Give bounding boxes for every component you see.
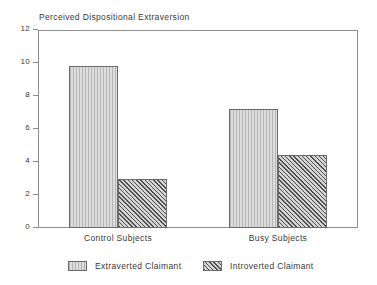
x-axis-category-label: Control Subjects xyxy=(48,233,188,243)
y-tick-mark xyxy=(33,62,38,63)
bar xyxy=(229,109,278,228)
y-tick-label: 12 xyxy=(21,24,31,34)
legend-item: Extraverted Claimant xyxy=(68,258,181,274)
y-tick-mark xyxy=(33,95,38,96)
y-tick-label: 0 xyxy=(25,222,30,232)
y-tick-mark xyxy=(33,161,38,162)
y-tick-mark xyxy=(33,194,38,195)
y-tick-mark xyxy=(33,29,38,30)
chart-legend: Extraverted ClaimantIntroverted Claimant xyxy=(0,258,377,278)
y-tick-label: 10 xyxy=(21,57,31,67)
bar xyxy=(278,155,327,228)
x-axis-category-label: Busy Subjects xyxy=(208,233,348,243)
legend-label: Introverted Claimant xyxy=(230,261,314,271)
bar-chart: Perceived Dispositional Extraversion 024… xyxy=(0,0,377,285)
y-tick-label: 4 xyxy=(25,156,30,166)
legend-item: Introverted Claimant xyxy=(203,258,314,274)
y-tick-mark xyxy=(33,227,38,228)
y-tick-label: 8 xyxy=(25,90,30,100)
legend-swatch xyxy=(68,261,87,271)
y-tick-label: 6 xyxy=(25,123,30,133)
bar xyxy=(69,66,118,228)
y-tick-label: 2 xyxy=(25,189,30,199)
legend-label: Extraverted Claimant xyxy=(95,261,181,271)
chart-title: Perceived Dispositional Extraversion xyxy=(39,12,190,22)
y-tick-mark xyxy=(33,128,38,129)
legend-swatch xyxy=(203,261,222,271)
bar xyxy=(118,179,167,228)
